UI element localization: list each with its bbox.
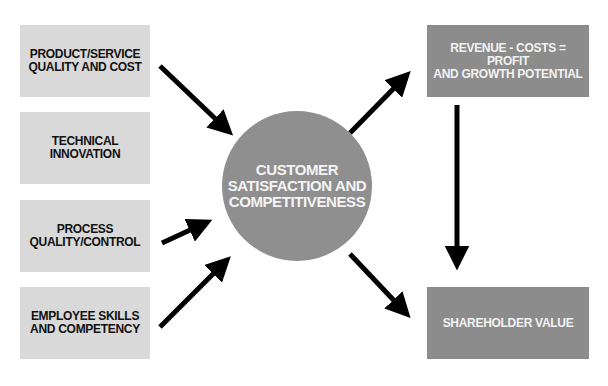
center-label: CUSTOMER SATISFACTION AND COMPETITIVENES…	[228, 162, 367, 210]
arrow-center-to-revenue	[350, 80, 402, 133]
input-box-employee-skills: EMPLOYEE SKILLS AND COMPETENCY	[20, 287, 150, 359]
center-circle-customer-satisfaction: CUSTOMER SATISFACTION AND COMPETITIVENES…	[222, 111, 372, 261]
output-label: SHAREHOLDER VALUE	[443, 317, 574, 330]
output-label: REVENUE - COSTS = PROFIT AND GROWTH POTE…	[433, 42, 583, 81]
input-box-product-service: PRODUCT/SERVICE QUALITY AND COST	[20, 25, 150, 97]
input-box-technical-innovation: TECHNICAL INNOVATION	[20, 112, 150, 184]
input-box-process-quality: PROCESS QUALITY/CONTROL	[20, 200, 150, 272]
input-label: EMPLOYEE SKILLS AND COMPETENCY	[30, 310, 140, 336]
input-label: PROCESS QUALITY/CONTROL	[30, 223, 141, 249]
arrow-product-to-center	[160, 66, 224, 127]
arrow-process-to-center	[162, 225, 201, 243]
output-box-revenue-profit: REVENUE - COSTS = PROFIT AND GROWTH POTE…	[427, 25, 589, 97]
input-label: TECHNICAL INNOVATION	[50, 135, 121, 161]
arrow-employee-to-center	[160, 265, 222, 327]
arrow-center-to-shareholder	[350, 254, 402, 309]
output-box-shareholder-value: SHAREHOLDER VALUE	[427, 287, 589, 359]
input-label: PRODUCT/SERVICE QUALITY AND COST	[28, 48, 141, 74]
